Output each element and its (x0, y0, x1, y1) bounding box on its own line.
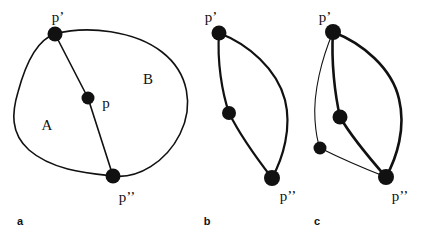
panel-c-node-lower-left (314, 142, 327, 155)
panel-a-label-p: p (102, 96, 110, 111)
panel-c-arc-through-interior-node (332, 32, 386, 177)
panel-c-node-p-double-prime (378, 169, 394, 185)
panel-a-label-region-b: B (143, 72, 153, 87)
panel-a-node-p-double-prime (106, 169, 121, 184)
panel-b-arc-through-interior-node (219, 33, 272, 178)
panel-c (314, 24, 402, 185)
panel-c-label-p-double-prime: p’’ (392, 189, 408, 204)
panel-a-label-region-a: A (42, 118, 53, 133)
panel-letter-a: a (17, 215, 23, 227)
panel-a-node-p-prime (48, 27, 63, 42)
panel-c-node-interior (333, 110, 348, 125)
panel-a-node-p (82, 92, 95, 105)
panel-b (212, 26, 288, 187)
panel-letter-c: c (314, 215, 320, 227)
panel-a-label-p-double-prime: p’’ (119, 190, 135, 205)
panel-c-node-p-prime (325, 24, 341, 40)
figure-vector-layer (0, 0, 429, 238)
panel-c-thin-arc-through-lower-left-node (315, 32, 386, 177)
panel-b-arc-right-bulge (219, 33, 287, 178)
panel-b-node-interior (222, 106, 236, 120)
panel-b-node-p-double-prime (264, 170, 280, 186)
panel-b-node-p-prime (212, 26, 227, 41)
panel-b-label-p-prime: p’ (205, 10, 218, 25)
panel-a-label-p-prime: p’ (52, 10, 65, 25)
figure-canvas: p’pp’’ABap’p’’bp’p’’c (0, 0, 429, 238)
panel-b-label-p-double-prime: p’’ (280, 189, 296, 204)
panel-letter-b: b (204, 215, 211, 227)
panel-c-label-p-prime: p’ (319, 10, 332, 25)
panel-a (14, 27, 188, 184)
panel-a-outer-closed-curve (14, 30, 188, 176)
